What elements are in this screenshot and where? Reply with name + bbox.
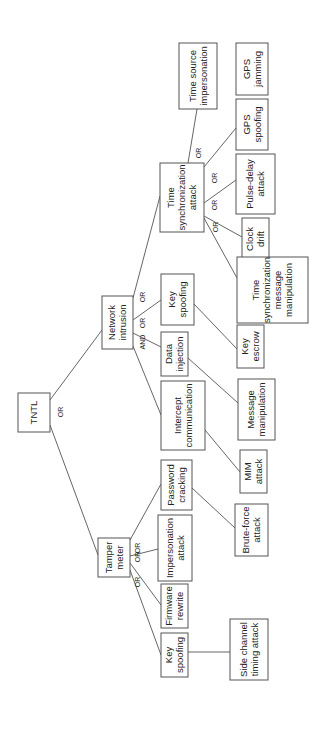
nodes-layer: TNTLNetworkintrusionTampermeterTimesynch…: [18, 43, 308, 680]
node-gps-spoofing: GPSspoofing: [236, 99, 268, 150]
gate-label-or: OR: [211, 173, 218, 184]
node-password-cracking: Passwordcracking: [161, 460, 192, 510]
node-label: Firmwarerewrite: [163, 586, 185, 626]
node-gps-jamming: GPSjamming: [236, 43, 268, 95]
edge-key-spoofing-ni-to-key-escrow: [194, 304, 237, 349]
node-message-manipulation: Messagemanipulation: [238, 379, 275, 440]
edge-time-synchronization-attack-to-clock-drift: [204, 216, 242, 237]
node-impersonation-attack: Impersonationattack: [158, 515, 192, 581]
node-clock-drift: Clockdrift: [242, 218, 269, 260]
gate-label-and: AND: [139, 335, 146, 350]
edge-network-intrusion-to-time-synchronization-attack: [133, 196, 160, 298]
edge-time-synchronization-attack-to-gps-spoofing: [204, 128, 236, 167]
node-label: MIMattack: [242, 459, 264, 485]
node-side-channel-timing-attack: Side channeltiming attack: [230, 619, 268, 680]
node-label: Tampermeter: [102, 542, 124, 574]
gate-label-or: OR: [134, 543, 141, 554]
edge-tamper-meter-to-password-cracking: [130, 484, 161, 540]
edge-tntl-to-network-intrusion: [50, 330, 102, 400]
node-pulse-delay-attack: Pulse-delayattack: [236, 154, 275, 214]
node-firmware-rewrite: Firmwarerewrite: [161, 584, 188, 628]
node-brute-force-attack: Brute-forceattack: [235, 504, 268, 556]
node-time-source-impersonation: Time sourceimpersonation: [179, 43, 217, 109]
node-label: Networkintrusion: [106, 305, 128, 341]
gate-label-or: OR: [212, 222, 219, 233]
node-key-escrow: Keyescrow: [237, 325, 264, 368]
gate-label-or: OR: [139, 292, 146, 303]
attack-tree-diagram: TNTLNetworkintrusionTampermeterTimesynch…: [0, 0, 321, 733]
node-key-spoofing-ni: Keyspoofing: [161, 274, 194, 325]
edge-network-intrusion-to-key-spoofing-ni: [133, 300, 161, 320]
gate-label-or: OR: [134, 577, 141, 588]
node-time-synchronization-attack: Timesynchronizationattack: [160, 163, 204, 232]
edge-intercept-communication-to-mim-attack: [205, 430, 240, 472]
node-tamper-meter: Tampermeter: [98, 538, 130, 577]
gate-label-or: OR: [211, 200, 218, 211]
edge-time-synchronization-attack-to-time-sync-message-manipulation: [204, 218, 237, 278]
node-data-injection: Datainjection: [161, 332, 188, 376]
edge-time-synchronization-attack-to-pulse-delay-attack: [204, 180, 236, 203]
node-label: Messagemanipulation: [245, 383, 267, 437]
gate-label-or: OR: [195, 148, 202, 159]
edge-password-cracking-to-brute-force-attack: [192, 488, 235, 528]
node-intercept-communication: Interceptcommunication: [161, 381, 205, 450]
node-network-intrusion: Networkintrusion: [102, 296, 133, 349]
edge-network-intrusion-to-intercept-communication: [133, 346, 161, 415]
edge-tntl-to-tamper-meter: [50, 425, 98, 555]
node-label: Passwordcracking: [165, 464, 187, 506]
edges-layer: [50, 109, 242, 655]
gate-label-or: OR: [57, 407, 64, 418]
node-mim-attack: MIMattack: [240, 450, 267, 493]
node-time-sync-message-manipulation: Timesynchronizationmessagemanipulation: [237, 257, 308, 323]
node-tntl: TNTL: [18, 393, 50, 432]
node-key-spoofing-tm: Keyspoofing: [161, 633, 188, 677]
gate-label-or: OR: [139, 318, 146, 329]
edge-network-intrusion-to-data-injection: [133, 333, 161, 347]
gate-label-or: OR: [134, 552, 141, 563]
node-label: TNTL: [28, 401, 39, 425]
node-label: Side channeltiming attack: [237, 622, 259, 677]
node-label: Time sourceimpersonation: [186, 46, 208, 106]
